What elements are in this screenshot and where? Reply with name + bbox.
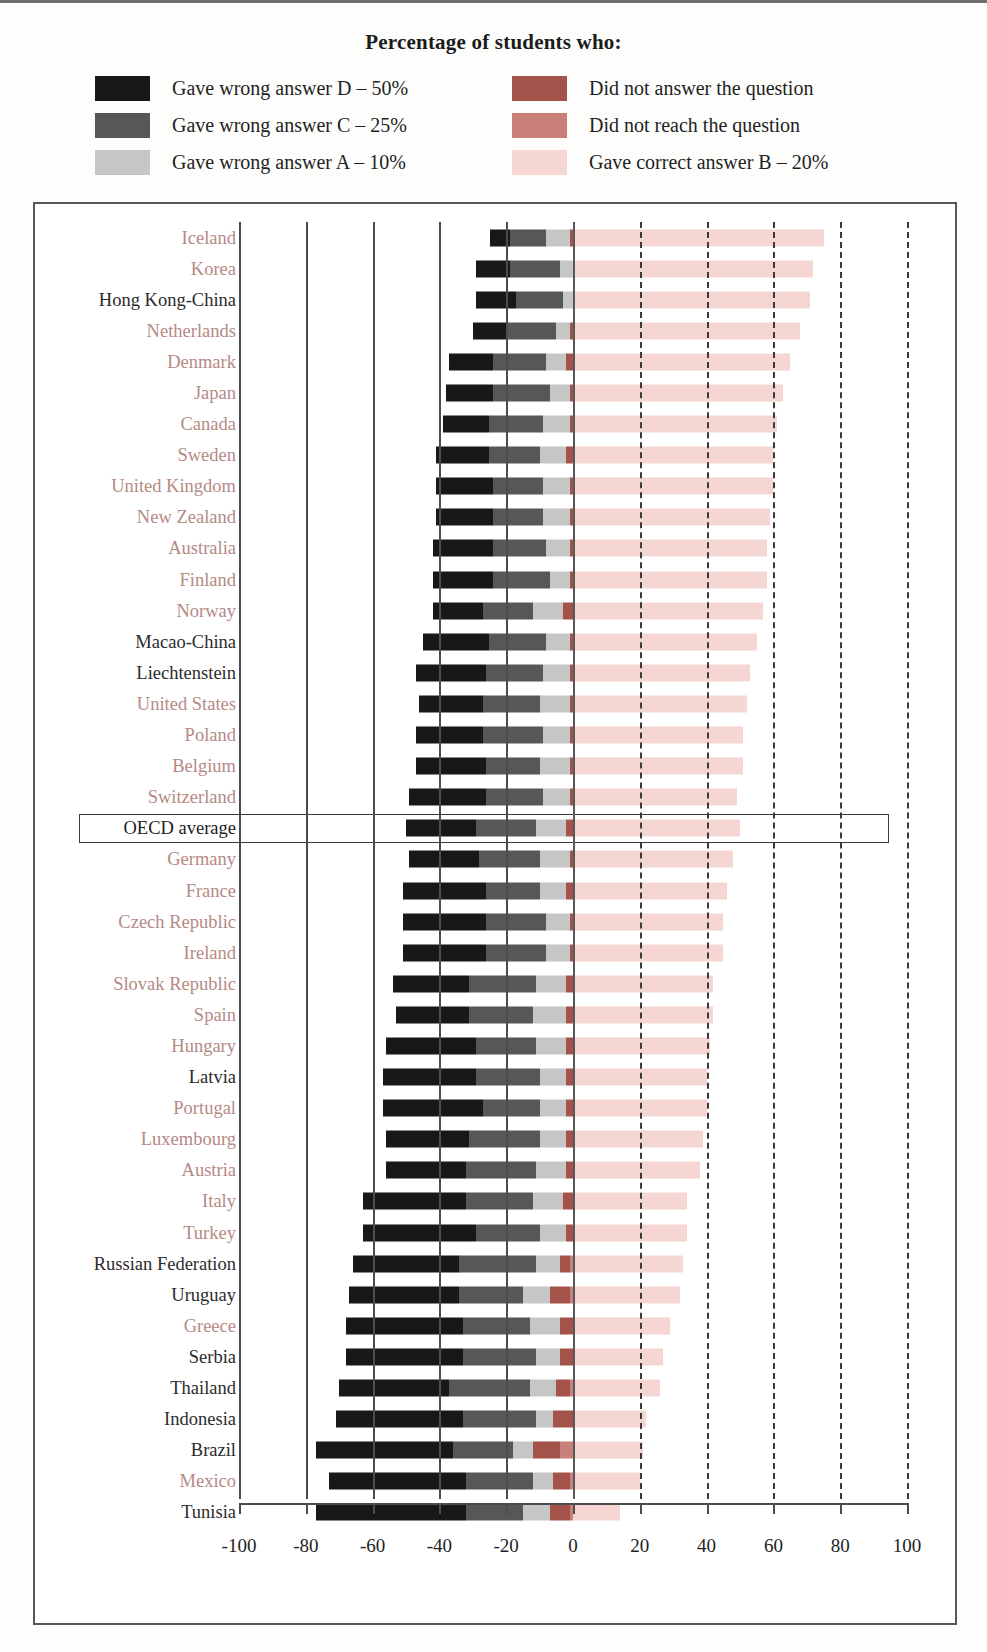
bar-positive[interactable] — [573, 1442, 643, 1459]
bar-positive[interactable] — [573, 229, 824, 246]
bar-positive[interactable] — [573, 882, 727, 899]
bar-negative[interactable] — [316, 1442, 573, 1459]
bar-negative[interactable] — [433, 540, 573, 557]
legend-item-no_answer[interactable]: Did not answer the question — [512, 70, 828, 107]
bar-negative[interactable] — [346, 1317, 573, 1334]
bar-negative[interactable] — [353, 1255, 573, 1272]
bar-negative[interactable] — [433, 571, 573, 588]
table-row[interactable]: Macao-China — [35, 626, 955, 657]
bar-negative[interactable] — [363, 1193, 573, 1210]
table-row[interactable]: United Kingdom — [35, 471, 955, 502]
table-row[interactable]: Liechtenstein — [35, 657, 955, 688]
table-row[interactable]: Finland — [35, 564, 955, 595]
bar-positive[interactable] — [573, 571, 767, 588]
bar-positive[interactable] — [573, 913, 723, 930]
bar-positive[interactable] — [573, 1348, 663, 1365]
table-row[interactable]: Iceland — [35, 222, 955, 253]
bar-positive[interactable] — [573, 509, 770, 526]
table-row[interactable]: OECD average — [35, 813, 955, 844]
bar-negative[interactable] — [386, 1037, 573, 1054]
table-row[interactable]: Japan — [35, 377, 955, 408]
bar-negative[interactable] — [403, 913, 573, 930]
bar-positive[interactable] — [573, 322, 800, 339]
bar-negative[interactable] — [473, 322, 573, 339]
table-row[interactable]: United States — [35, 688, 955, 719]
bar-positive[interactable] — [573, 1473, 640, 1490]
bar-negative[interactable] — [436, 509, 573, 526]
table-row[interactable]: Netherlands — [35, 315, 955, 346]
table-row[interactable]: Austria — [35, 1155, 955, 1186]
bar-positive[interactable] — [573, 820, 740, 837]
bar-negative[interactable] — [446, 385, 573, 402]
bar-negative[interactable] — [433, 602, 573, 619]
bar-negative[interactable] — [346, 1348, 573, 1365]
table-row[interactable]: Sweden — [35, 440, 955, 471]
bar-positive[interactable] — [573, 1504, 620, 1521]
table-row[interactable]: Hong Kong-China — [35, 284, 955, 315]
legend-item-correct_b[interactable]: Gave correct answer B – 20% — [512, 144, 828, 181]
table-row[interactable]: Uruguay — [35, 1279, 955, 1310]
bar-negative[interactable] — [403, 882, 573, 899]
table-row[interactable]: Portugal — [35, 1093, 955, 1124]
legend-item-not_reached[interactable]: Did not reach the question — [512, 107, 828, 144]
bar-negative[interactable] — [403, 944, 573, 961]
bar-positive[interactable] — [573, 1006, 713, 1023]
bar-positive[interactable] — [573, 758, 743, 775]
bar-negative[interactable] — [383, 1069, 573, 1086]
table-row[interactable]: Hungary — [35, 1030, 955, 1061]
table-row[interactable]: Germany — [35, 844, 955, 875]
bar-positive[interactable] — [573, 1224, 687, 1241]
table-row[interactable]: Indonesia — [35, 1404, 955, 1435]
table-row[interactable]: Australia — [35, 533, 955, 564]
bar-positive[interactable] — [573, 633, 757, 650]
bar-negative[interactable] — [419, 695, 573, 712]
bar-positive[interactable] — [573, 447, 773, 464]
bar-positive[interactable] — [573, 1286, 680, 1303]
bar-negative[interactable] — [386, 1162, 573, 1179]
legend-item-wrong_a[interactable]: Gave wrong answer A – 10% — [95, 144, 408, 181]
bar-negative[interactable] — [409, 789, 573, 806]
bar-negative[interactable] — [423, 633, 573, 650]
bar-positive[interactable] — [573, 416, 777, 433]
table-row[interactable]: Thailand — [35, 1372, 955, 1403]
bar-positive[interactable] — [573, 353, 790, 370]
bar-positive[interactable] — [573, 727, 743, 744]
table-row[interactable]: Mexico — [35, 1466, 955, 1497]
bar-negative[interactable] — [386, 1131, 573, 1148]
bar-positive[interactable] — [573, 1131, 703, 1148]
bar-positive[interactable] — [573, 1317, 670, 1334]
bar-positive[interactable] — [573, 1255, 683, 1272]
bar-negative[interactable] — [409, 851, 573, 868]
bar-negative[interactable] — [336, 1411, 573, 1428]
bar-positive[interactable] — [573, 695, 747, 712]
table-row[interactable]: Russian Federation — [35, 1248, 955, 1279]
table-row[interactable]: Czech Republic — [35, 906, 955, 937]
bar-negative[interactable] — [349, 1286, 573, 1303]
bar-negative[interactable] — [363, 1224, 573, 1241]
bar-positive[interactable] — [573, 851, 733, 868]
bar-negative[interactable] — [476, 260, 573, 277]
table-row[interactable]: Tunisia — [35, 1497, 955, 1528]
bar-negative[interactable] — [449, 353, 573, 370]
bar-negative[interactable] — [393, 975, 573, 992]
bar-positive[interactable] — [573, 602, 763, 619]
bar-negative[interactable] — [436, 478, 573, 495]
table-row[interactable]: Belgium — [35, 751, 955, 782]
table-row[interactable]: New Zealand — [35, 502, 955, 533]
table-row[interactable]: Serbia — [35, 1341, 955, 1372]
table-row[interactable]: Ireland — [35, 937, 955, 968]
bar-negative[interactable] — [476, 291, 573, 308]
bar-positive[interactable] — [573, 944, 723, 961]
table-row[interactable]: France — [35, 875, 955, 906]
bar-positive[interactable] — [573, 1380, 660, 1397]
bar-positive[interactable] — [573, 789, 737, 806]
table-row[interactable]: Switzerland — [35, 782, 955, 813]
table-row[interactable]: Greece — [35, 1310, 955, 1341]
bar-positive[interactable] — [573, 1162, 700, 1179]
bar-negative[interactable] — [396, 1006, 573, 1023]
bar-positive[interactable] — [573, 1411, 646, 1428]
bar-positive[interactable] — [573, 385, 783, 402]
bar-negative[interactable] — [329, 1473, 573, 1490]
bar-negative[interactable] — [436, 447, 573, 464]
table-row[interactable]: Denmark — [35, 346, 955, 377]
